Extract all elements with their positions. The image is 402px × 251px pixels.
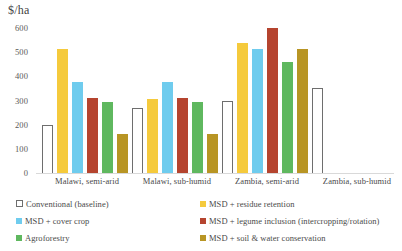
bar-0-5[interactable] (117, 134, 128, 173)
legend-swatch-icon (16, 200, 23, 207)
legend-item[interactable]: MSD + cover crop (16, 212, 200, 229)
bar-1-2[interactable] (162, 82, 173, 173)
bar-2-0[interactable] (222, 101, 233, 173)
x-axis-label-3: Zambia, sub-humid (323, 176, 391, 186)
y-axis-tick-0: 0 (24, 168, 28, 178)
x-axis-category-labels: Malawi, semi-aridMalawi, sub-humidZambia… (36, 176, 396, 190)
y-axis-tick-400: 400 (15, 71, 28, 81)
y-axis-tick-200: 200 (15, 120, 28, 130)
legend-item[interactable]: MSD + soil & water conservation (200, 229, 394, 246)
legend-swatch-icon (200, 218, 206, 224)
y-axis-title: $/ha (8, 3, 29, 18)
bar-1-3[interactable] (177, 98, 188, 173)
legend-label: MSD + residue retention (209, 199, 295, 209)
legend-label: MSD + soil & water conservation (209, 233, 326, 243)
bar-0-2[interactable] (72, 82, 83, 173)
legend-swatch-icon (16, 235, 22, 241)
bar-group (222, 28, 312, 173)
legend-item[interactable]: MSD + legume inclusion (intercropping/ro… (200, 212, 394, 229)
bar-1-0[interactable] (132, 108, 143, 173)
legend-label: MSD + legume inclusion (intercropping/ro… (209, 216, 380, 226)
bar-2-3[interactable] (267, 28, 278, 173)
legend-label: MSD + cover crop (25, 216, 89, 226)
legend-label: Agroforestry (25, 233, 70, 243)
plot-area (36, 28, 396, 173)
bar-3-0[interactable] (312, 88, 323, 173)
y-axis-tick-100: 100 (15, 144, 28, 154)
bar-0-1[interactable] (57, 49, 68, 173)
bar-1-4[interactable] (192, 102, 203, 173)
x-axis-label-1: Malawi, sub-humid (143, 176, 211, 186)
legend-item[interactable]: Agroforestry (16, 229, 200, 246)
y-axis-tick-600: 600 (15, 23, 28, 33)
bar-0-4[interactable] (102, 102, 113, 173)
bar-group (312, 28, 402, 173)
bar-1-5[interactable] (207, 134, 218, 173)
bar-0-0[interactable] (42, 125, 53, 173)
legend-swatch-icon (200, 235, 206, 241)
y-axis-tick-labels: 0100200300400500600 (0, 28, 32, 173)
bar-2-1[interactable] (237, 43, 248, 173)
bar-2-4[interactable] (282, 62, 293, 173)
legend-swatch-icon (200, 201, 206, 207)
bar-chart: $/ha 0100200300400500600 Malawi, semi-ar… (0, 0, 402, 251)
bar-1-1[interactable] (147, 99, 158, 173)
bar-2-2[interactable] (252, 49, 263, 173)
y-axis-tick-300: 300 (15, 96, 28, 106)
legend-label: Conventional (baseline) (26, 199, 109, 209)
legend-item[interactable]: MSD + residue retention (200, 195, 394, 212)
x-axis-label-0: Malawi, semi-arid (55, 176, 119, 186)
bar-2-5[interactable] (297, 49, 308, 173)
legend-swatch-icon (16, 218, 22, 224)
bar-0-3[interactable] (87, 98, 98, 173)
y-axis-tick-500: 500 (15, 47, 28, 57)
x-axis-line (36, 173, 394, 174)
bar-group (42, 28, 132, 173)
chart-legend: Conventional (baseline)MSD + residue ret… (16, 195, 394, 247)
legend-item[interactable]: Conventional (baseline) (16, 195, 200, 212)
x-axis-label-2: Zambia, semi-arid (235, 176, 299, 186)
bar-group (132, 28, 222, 173)
